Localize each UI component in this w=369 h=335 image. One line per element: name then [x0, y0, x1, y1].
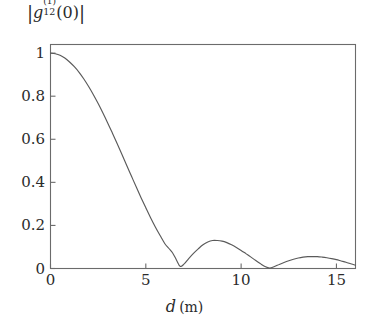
data-curve: [51, 53, 356, 268]
coherence-chart-figure: |g(1)12(0)| 00.20.40.60.81 051015 d (m): [0, 0, 369, 335]
y-tick-label: 0.8: [21, 89, 45, 104]
y-tick-label: 0.6: [21, 132, 45, 147]
x-axis-title: d (m): [0, 297, 369, 316]
y-axis-title-indices: (1)12: [43, 2, 56, 18]
plot-frame-border: [51, 45, 356, 269]
y-axis-title-argument: (0): [56, 3, 79, 22]
x-tick-label: 15: [327, 273, 346, 288]
axis-tick-marks: [51, 53, 337, 268]
x-tick-label: 0: [46, 273, 56, 288]
y-tick-label: 1: [35, 46, 45, 61]
x-tick-label: 5: [141, 273, 151, 288]
y-axis-title-subscript: 12: [43, 7, 55, 17]
y-tick-label: 0.4: [21, 175, 45, 190]
x-tick-label: 10: [232, 273, 251, 288]
x-axis-title-unit: (m): [179, 299, 203, 315]
y-axis-title-bar-right: |: [79, 2, 85, 23]
y-tick-label: 0.2: [21, 218, 45, 233]
x-axis-tick-labels: 051015: [0, 273, 369, 295]
x-axis-title-symbol: d: [166, 297, 176, 316]
